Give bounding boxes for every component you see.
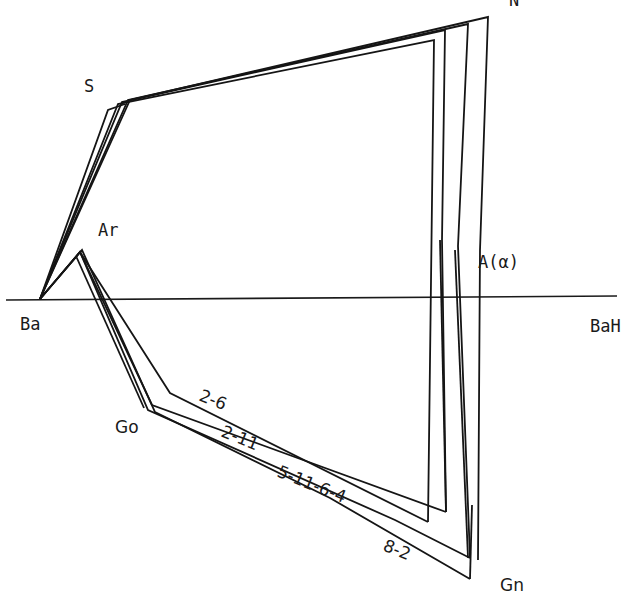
tracing-extra-stroke-3	[470, 505, 472, 579]
label-s: S	[84, 76, 94, 96]
label-bah: BaH	[590, 316, 621, 336]
ba-bah-reference-line	[6, 296, 617, 300]
tracing-label-2-11: 2-11	[219, 421, 262, 454]
cephalometric-diagram: N S Ar Ba BaH A(α) Go Gn 2-6 2-11 5-11-6…	[0, 0, 633, 597]
tracing-extra-stroke-1	[76, 256, 144, 408]
label-n: N	[509, 0, 519, 10]
label-a-alpha: A(α)	[478, 252, 519, 272]
label-go: Go	[115, 417, 139, 437]
tracing-8-2-lower	[40, 250, 470, 579]
tracing-8-2-upper	[40, 17, 488, 560]
tracing-label-5-11-6-4: 5-11-6-4	[275, 461, 350, 507]
label-ba: Ba	[20, 314, 40, 334]
tracing-label-2-6: 2-6	[197, 385, 230, 414]
label-gn: Gn	[500, 575, 524, 595]
tracing-label-8-2: 8-2	[381, 535, 414, 564]
label-ar: Ar	[98, 220, 118, 240]
